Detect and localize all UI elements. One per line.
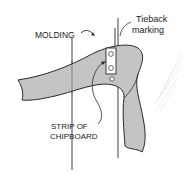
strip-label-line1: STRIP OF <box>51 122 88 131</box>
wall-hatching <box>155 52 182 110</box>
tieback-diagram: MOLDING Tieback marking STRIP OF CHIPBOA… <box>0 0 190 183</box>
tieback-label-line1: Tieback <box>136 14 168 24</box>
screw-icon <box>109 52 114 57</box>
tieback-label-line2: marking <box>132 25 164 35</box>
molding-arrow-icon <box>81 30 93 34</box>
tieback-leader <box>120 22 131 36</box>
strip-label-line2: CHIPBOARD <box>50 132 98 141</box>
screw-icon <box>109 66 114 71</box>
screw-icon <box>110 77 114 81</box>
molding-label: MOLDING <box>35 30 75 40</box>
